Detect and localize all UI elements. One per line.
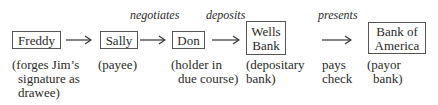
note-freddy-line1: (forges Jim’s [12,58,80,72]
note-sally: (payee) [98,58,137,72]
note-sally-line1: (payee) [98,58,137,72]
node-wells-label-line1: Wells [250,25,282,39]
note-wells-line2: bank) [246,72,304,86]
note-freddy: (forges Jim’s signature as drawee) [12,58,80,100]
note-don-line1: (holder in [171,58,238,72]
note-wells-line1: (depositary [246,58,304,72]
note-boa-line1: (payor [367,58,403,72]
note-freddy-line2: signature as [12,72,80,86]
node-wells-bank: Wells Bank [246,21,286,55]
node-sally-label: Sally [106,33,133,48]
note-boa: (payor bank) [367,58,403,86]
edge-label-negotiates: negotiates [130,9,179,21]
arrow-freddy-to-sally [66,35,92,45]
node-boa-label-line1: Bank of [372,25,422,39]
note-pays: pays [322,58,352,72]
node-freddy: Freddy [12,31,61,49]
edge-label-presents: presents [318,9,358,21]
note-don-line2: due course) [171,72,238,86]
note-don: (holder in due course) [171,58,238,86]
node-don: Don [172,31,205,49]
note-boa-line2: bank) [367,72,403,86]
note-pays-check: pays check [322,58,352,86]
node-boa-label-line2: America [372,39,422,53]
node-bank-of-america: Bank of America [368,22,426,54]
note-check: check [322,72,352,86]
node-sally: Sally [100,31,138,49]
arrow-don-to-wells [212,35,240,45]
note-freddy-line3: drawee) [12,86,80,100]
node-don-label: Don [177,33,199,48]
node-wells-label-line2: Bank [250,39,282,53]
arrow-wells-to-boa [322,35,352,45]
arrow-sally-to-don [140,35,166,45]
note-wells: (depositary bank) [246,58,304,86]
node-freddy-label: Freddy [18,33,55,48]
edge-label-deposits: deposits [206,9,245,21]
